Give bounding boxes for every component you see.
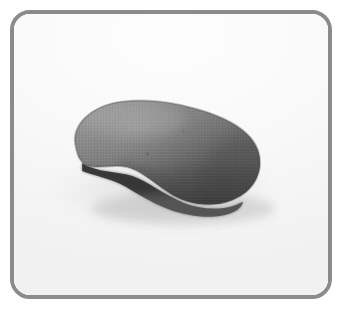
photo-card: [0, 0, 342, 314]
photo-frame-border: [10, 10, 332, 299]
bean-object-illustration: [14, 14, 328, 295]
